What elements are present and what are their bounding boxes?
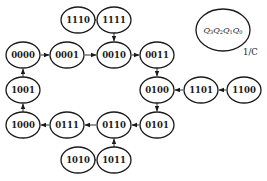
state-label: 1000 bbox=[11, 120, 35, 130]
state-node-0101: 0101 bbox=[140, 112, 174, 138]
state-node-1011: 1011 bbox=[97, 147, 131, 173]
state-label: 1001 bbox=[11, 85, 35, 95]
state-node-0100: 0100 bbox=[140, 77, 174, 103]
state-label: 0010 bbox=[102, 50, 126, 60]
state-node-0011: 0011 bbox=[140, 42, 174, 68]
state-diagram: 1110 1111 0000 0001 0010 0011 1001 0100 bbox=[0, 0, 267, 181]
state-node-0010: 0010 bbox=[97, 42, 131, 68]
state-node-1110: 1110 bbox=[61, 7, 95, 33]
state-node-1010: 1010 bbox=[61, 147, 95, 173]
state-label: 0111 bbox=[55, 120, 79, 130]
state-label: 0001 bbox=[55, 50, 79, 60]
legend: Q3Q2Q1Q0 1/C bbox=[196, 9, 258, 57]
state-node-0000: 0000 bbox=[6, 42, 40, 68]
io-label: 1/C bbox=[243, 47, 258, 57]
state-node-1001: 1001 bbox=[6, 77, 40, 103]
state-node-0110: 0110 bbox=[97, 112, 131, 138]
state-label: 0000 bbox=[11, 50, 35, 60]
state-node-1100: 1100 bbox=[227, 77, 261, 103]
state-label: 1100 bbox=[232, 85, 256, 95]
state-label: 0011 bbox=[145, 50, 169, 60]
state-node-0001: 0001 bbox=[50, 42, 84, 68]
state-node-1000: 1000 bbox=[6, 112, 40, 138]
state-label: 0101 bbox=[145, 120, 169, 130]
state-node-1101: 1101 bbox=[184, 77, 218, 103]
legend-state-format: Q3Q2Q1Q0 bbox=[204, 26, 243, 36]
state-label: 1110 bbox=[66, 15, 90, 25]
state-node-1111: 1111 bbox=[97, 7, 131, 33]
state-label: 1111 bbox=[102, 15, 126, 25]
state-label: 1011 bbox=[102, 155, 126, 165]
state-label: 0110 bbox=[102, 120, 126, 130]
state-label: 1010 bbox=[66, 155, 90, 165]
state-label: 0100 bbox=[145, 85, 169, 95]
state-label: 1101 bbox=[189, 85, 213, 95]
state-node-0111: 0111 bbox=[50, 112, 84, 138]
